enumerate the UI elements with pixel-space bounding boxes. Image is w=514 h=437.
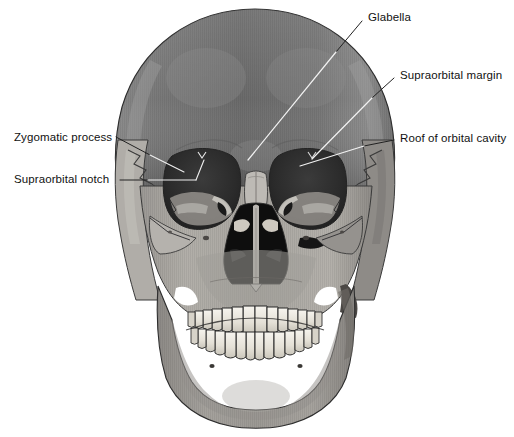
right-mental-foramen bbox=[297, 364, 302, 368]
label-zygomatic-process: Zygomatic process bbox=[14, 131, 112, 144]
left-mental-foramen bbox=[209, 364, 214, 368]
nasal-bones bbox=[245, 171, 268, 208]
label-supraorbital-margin: Supraorbital margin bbox=[400, 69, 502, 82]
label-supraorbital-notch: Supraorbital notch bbox=[14, 173, 109, 186]
label-glabella: Glabella bbox=[368, 11, 411, 24]
skull-illustration bbox=[0, 0, 514, 437]
label-roof-of-orbital-cavity: Roof of orbital cavity bbox=[400, 132, 506, 145]
right-infraorbital-foramen bbox=[303, 236, 309, 240]
left-infraorbital-foramen bbox=[203, 236, 209, 240]
skull-anatomy-figure bbox=[0, 0, 514, 437]
left-orbital-cavity bbox=[163, 149, 240, 230]
